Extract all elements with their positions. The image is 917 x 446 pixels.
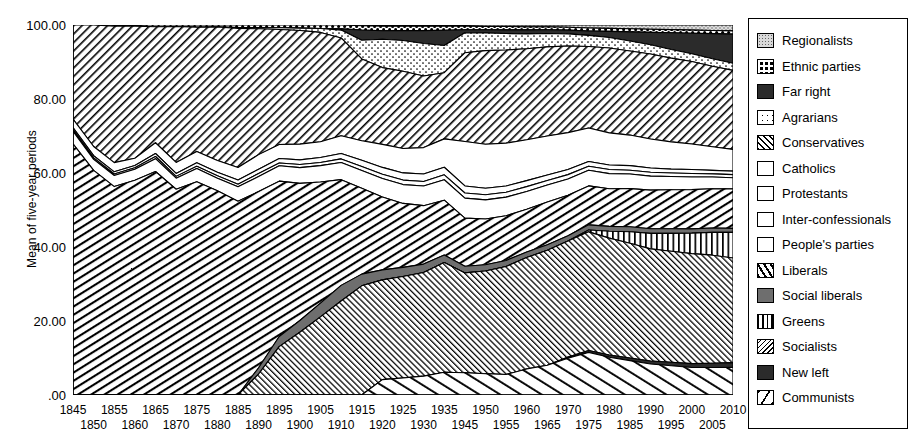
legend-item[interactable]: People's parties xyxy=(757,232,907,258)
x-tick-label: 1860 xyxy=(113,419,157,431)
x-tick-label: 1995 xyxy=(649,419,693,431)
plot-area xyxy=(73,25,733,395)
legend-item[interactable]: Far right xyxy=(757,79,907,105)
legend-item-label: New left xyxy=(782,366,829,379)
legend-item-label: People's parties xyxy=(782,238,874,251)
legend-item-label: Liberals xyxy=(782,264,828,277)
legend-swatch-liberals xyxy=(757,263,774,278)
legend-item[interactable]: Liberals xyxy=(757,258,907,284)
x-tick-label: 2005 xyxy=(690,419,734,431)
x-tick-label: 1965 xyxy=(525,419,569,431)
x-tick-label: 1865 xyxy=(134,404,178,416)
x-tick-label: 1900 xyxy=(278,419,322,431)
chart-figure: Mean of five-year periods 100.0080.0060.… xyxy=(0,0,917,446)
legend-item[interactable]: Inter-confessionals xyxy=(757,207,907,233)
x-tick-label: 1955 xyxy=(484,419,528,431)
legend-swatch-conservatives xyxy=(757,135,774,150)
legend-item-label: Inter-confessionals xyxy=(782,213,891,226)
legend-item-label: Agrarians xyxy=(782,111,838,124)
x-tick-label: 1935 xyxy=(422,404,466,416)
legend-item-label: Catholics xyxy=(782,162,835,175)
legend-item[interactable]: Agrarians xyxy=(757,105,907,131)
legend-swatch-ethnic-parties xyxy=(757,59,774,74)
legend-swatch-communists xyxy=(757,390,774,405)
legend-item[interactable]: Socialists xyxy=(757,334,907,360)
legend-swatch-far-right xyxy=(757,84,774,99)
legend-item[interactable]: Greens xyxy=(757,309,907,335)
x-tick-label: 1920 xyxy=(360,419,404,431)
x-tick-label: 1980 xyxy=(587,404,631,416)
legend-item-label: Socialists xyxy=(782,340,837,353)
legend-item-label: Communists xyxy=(782,391,854,404)
x-tick-label: 2000 xyxy=(670,404,714,416)
legend-swatch-greens xyxy=(757,314,774,329)
legend-item-label: Greens xyxy=(782,315,825,328)
legend-item-label: Far right xyxy=(782,85,830,98)
legend-swatch-new-left xyxy=(757,365,774,380)
legend-swatch-regionalists xyxy=(757,33,774,48)
x-tick-label: 1850 xyxy=(72,419,116,431)
x-tick-label: 1855 xyxy=(92,404,136,416)
legend-item[interactable]: Regionalists xyxy=(757,28,907,54)
stacked-area-svg xyxy=(73,25,733,395)
legend-item-label: Protestants xyxy=(782,187,848,200)
x-tick-label: 1905 xyxy=(299,404,343,416)
x-tick-label: 1910 xyxy=(319,419,363,431)
x-tick-label: 1975 xyxy=(567,419,611,431)
legend-swatch-protestants xyxy=(757,186,774,201)
legend-item-label: Regionalists xyxy=(782,34,853,47)
legend-item[interactable]: Ethnic parties xyxy=(757,54,907,80)
legend-item[interactable]: Social liberals xyxy=(757,283,907,309)
legend-item[interactable]: Catholics xyxy=(757,156,907,182)
x-tick-label: 1960 xyxy=(505,404,549,416)
x-tick-label: 1930 xyxy=(402,419,446,431)
legend-swatch-social-liberals xyxy=(757,288,774,303)
x-tick-label: 1990 xyxy=(629,404,673,416)
x-tick-label: 1880 xyxy=(195,419,239,431)
x-tick-label: 1895 xyxy=(257,404,301,416)
legend-item-label: Social liberals xyxy=(782,289,862,302)
legend-item-label: Conservatives xyxy=(782,136,864,149)
legend-swatch-inter-confessionals xyxy=(757,212,774,227)
legend-swatch-catholics xyxy=(757,161,774,176)
x-tick-label: 1885 xyxy=(216,404,260,416)
legend-item[interactable]: Conservatives xyxy=(757,130,907,156)
x-tick-label: 1945 xyxy=(443,419,487,431)
legend-item[interactable]: Communists xyxy=(757,385,907,411)
x-tick-label: 1870 xyxy=(154,419,198,431)
y-tick-label: 20.00 xyxy=(8,315,66,328)
y-tick-label: .00 xyxy=(8,389,66,402)
x-tick-label: 1950 xyxy=(464,404,508,416)
legend-item-label: Ethnic parties xyxy=(782,60,861,73)
y-tick-label: 60.00 xyxy=(8,167,66,180)
x-tick-label: 1875 xyxy=(175,404,219,416)
x-tick-label: 1970 xyxy=(546,404,590,416)
y-tick-label: 40.00 xyxy=(8,241,66,254)
y-tick-label: 100.00 xyxy=(8,19,66,32)
x-tick-label: 1845 xyxy=(51,404,95,416)
x-tick-label: 1985 xyxy=(608,419,652,431)
y-axis-title: Mean of five-year periods xyxy=(25,79,39,319)
x-tick-label: 1915 xyxy=(340,404,384,416)
chart-legend: RegionalistsEthnic partiesFar rightAgrar… xyxy=(748,18,908,429)
legend-swatch-agrarians xyxy=(757,110,774,125)
legend-swatch-socialists xyxy=(757,339,774,354)
y-tick-label: 80.00 xyxy=(8,93,66,106)
legend-item[interactable]: New left xyxy=(757,360,907,386)
legend-swatch-peoples-parties xyxy=(757,237,774,252)
legend-item[interactable]: Protestants xyxy=(757,181,907,207)
x-tick-label: 1890 xyxy=(237,419,281,431)
x-tick-label: 1925 xyxy=(381,404,425,416)
